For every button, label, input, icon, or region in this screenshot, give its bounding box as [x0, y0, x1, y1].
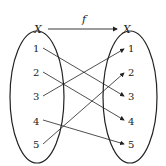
- left-element-4: 4: [33, 116, 39, 127]
- left-element-1: 1: [33, 43, 39, 54]
- left-set-label: X: [33, 23, 43, 36]
- right-element-4: 4: [128, 116, 134, 127]
- right-element-5: 5: [128, 139, 134, 150]
- right-element-3: 3: [128, 91, 134, 102]
- arrow-4-to-5: [43, 120, 124, 144]
- right-element-2: 2: [128, 67, 134, 78]
- arrow-2-to-4: [43, 72, 124, 120]
- arrow-5-to-2: [43, 73, 124, 144]
- mapping-diagram: X X f 1 2 3 4 5 1 2 3 4 5: [0, 0, 166, 166]
- left-element-3: 3: [33, 91, 39, 102]
- right-set-label: X: [122, 23, 132, 36]
- left-element-2: 2: [33, 67, 39, 78]
- function-label: f: [81, 13, 88, 26]
- right-element-1: 1: [128, 43, 134, 54]
- left-element-5: 5: [33, 139, 39, 150]
